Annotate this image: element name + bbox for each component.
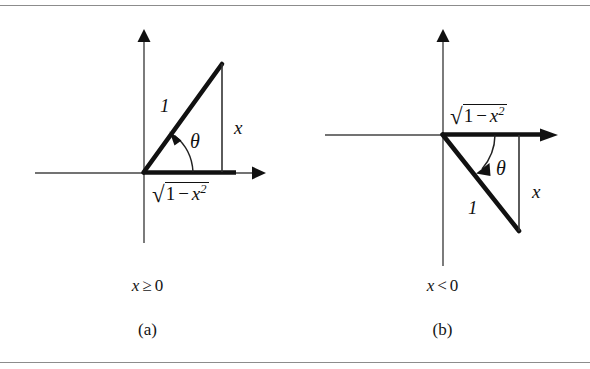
hypotenuse-label-a: 1 bbox=[160, 96, 170, 115]
angle-label-b: θ bbox=[496, 158, 506, 178]
panel-a: 1 θ x √1−x2 x≥0 (a) bbox=[0, 0, 295, 369]
radicand-minus-b: − bbox=[473, 105, 490, 126]
panel-tag-b: (b) bbox=[295, 320, 590, 340]
radicand-minus-a: − bbox=[175, 183, 192, 204]
radicand-b: 1−x2 bbox=[463, 104, 507, 125]
y-axis-b bbox=[437, 29, 450, 266]
radicand-one-b: 1 bbox=[464, 105, 474, 126]
base-label-b: √1−x2 bbox=[450, 104, 507, 127]
radical-sign-a: √ bbox=[152, 182, 165, 207]
radicand-exponent-b: 2 bbox=[498, 104, 504, 118]
radical-sign-b: √ bbox=[450, 104, 463, 129]
panel-b: √1−x2 θ 1 x x<0 (b) bbox=[295, 0, 590, 369]
condition-value-b: 0 bbox=[450, 276, 459, 295]
vertical-side-label-a: x bbox=[234, 118, 242, 137]
diagram-a-graphic bbox=[0, 0, 295, 369]
radicand-a: 1−x2 bbox=[165, 182, 209, 203]
figure-frame: 1 θ x √1−x2 x≥0 (a) bbox=[0, 0, 590, 369]
triangle-hypotenuse-b bbox=[443, 135, 520, 232]
condition-label-b: x<0 bbox=[295, 276, 590, 296]
condition-operator-a: ≥ bbox=[139, 276, 154, 295]
radicand-exponent-a: 2 bbox=[200, 182, 206, 196]
condition-operator-b: < bbox=[434, 276, 450, 295]
diagram-b-graphic bbox=[295, 0, 590, 369]
triangle-hypotenuse-a bbox=[144, 64, 223, 173]
condition-value-a: 0 bbox=[155, 276, 164, 295]
radicand-one-a: 1 bbox=[166, 183, 176, 204]
angle-label-a: θ bbox=[190, 131, 200, 151]
angle-arc-b bbox=[476, 135, 495, 176]
base-label-a: √1−x2 bbox=[152, 182, 209, 205]
hypotenuse-label-b: 1 bbox=[468, 198, 478, 217]
y-axis-a bbox=[138, 29, 151, 243]
vertical-side-label-b: x bbox=[532, 182, 540, 201]
panel-tag-a: (a) bbox=[0, 320, 295, 340]
condition-label-a: x≥0 bbox=[0, 276, 295, 296]
